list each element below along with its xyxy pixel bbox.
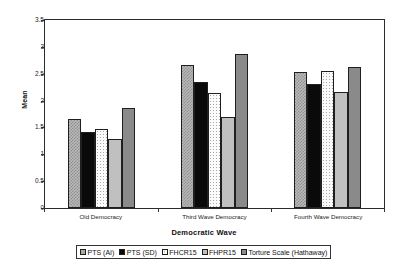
x-tick-mark xyxy=(384,208,385,212)
bar xyxy=(122,108,136,208)
legend-item[interactable]: FHCR15 xyxy=(162,249,197,256)
bar xyxy=(221,117,235,208)
x-category-label: Fourth Wave Democracy xyxy=(271,213,385,220)
x-axis-title: Democratic Wave xyxy=(0,228,408,237)
bars-layer xyxy=(45,20,384,208)
x-category-label: Old Democracy xyxy=(44,213,158,220)
bar xyxy=(194,82,208,208)
legend-label: FHPR15 xyxy=(209,249,236,256)
legend-swatch-icon xyxy=(202,249,208,255)
y-axis-ticks: 3.532.521.510.50 xyxy=(18,0,44,264)
x-tick-mark xyxy=(158,208,159,212)
bar xyxy=(68,119,82,208)
bar xyxy=(307,84,321,208)
bar xyxy=(235,54,249,208)
bar xyxy=(208,93,222,208)
bar xyxy=(81,132,95,208)
bar xyxy=(294,72,308,208)
legend-label: FHCR15 xyxy=(169,249,196,256)
bar xyxy=(348,67,362,208)
legend-item[interactable]: Torture Scale (Hathaway) xyxy=(241,249,327,256)
chart-figure: Mean 3.532.521.510.50 Old DemocracyThird… xyxy=(0,0,408,264)
legend-item[interactable]: PTS (AI) xyxy=(80,249,114,256)
bar-group xyxy=(158,20,271,208)
legend-swatch-icon xyxy=(119,249,125,255)
y-tick-mark xyxy=(41,127,44,128)
bar xyxy=(321,71,335,208)
legend-label: PTS (AI) xyxy=(88,249,115,256)
x-tick-mark xyxy=(271,208,272,212)
legend-swatch-icon xyxy=(241,249,247,255)
legend-swatch-icon xyxy=(162,249,168,255)
x-tick-mark xyxy=(44,208,45,212)
y-tick-mark xyxy=(41,181,44,182)
chart-legend: PTS (AI)PTS (SD)FHCR15FHPR15Torture Scal… xyxy=(76,245,331,259)
y-tick-mark xyxy=(41,101,44,102)
bar-group xyxy=(45,20,158,208)
bar xyxy=(95,129,109,208)
x-category-label: Third Wave Democracy xyxy=(158,213,272,220)
bar xyxy=(334,92,348,208)
y-tick-mark xyxy=(41,47,44,48)
bar xyxy=(181,65,195,208)
bar-group xyxy=(271,20,384,208)
legend-label: Torture Scale (Hathaway) xyxy=(248,249,327,256)
bar xyxy=(108,139,122,208)
y-tick-mark xyxy=(41,20,44,21)
x-axis-category-labels: Old DemocracyThird Wave DemocracyFourth … xyxy=(44,213,385,225)
y-tick-mark xyxy=(41,74,44,75)
legend-item[interactable]: FHPR15 xyxy=(202,249,236,256)
legend-item[interactable]: PTS (SD) xyxy=(119,249,156,256)
legend-swatch-icon xyxy=(80,249,86,255)
legend-label: PTS (SD) xyxy=(127,249,157,256)
y-tick-mark xyxy=(41,154,44,155)
